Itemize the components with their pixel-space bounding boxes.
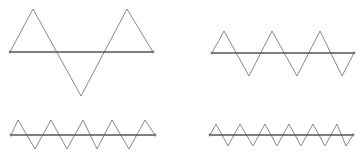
- endpoint-right: [154, 134, 157, 137]
- endpoint-left: [10, 134, 13, 137]
- endpoint-left: [209, 134, 212, 137]
- endpoint-right: [352, 134, 355, 137]
- triangle-wave-diagram: [0, 0, 360, 162]
- endpoint-left: [211, 52, 214, 55]
- endpoint-right: [353, 52, 356, 55]
- endpoint-left: [9, 51, 12, 54]
- endpoint-right: [152, 51, 155, 54]
